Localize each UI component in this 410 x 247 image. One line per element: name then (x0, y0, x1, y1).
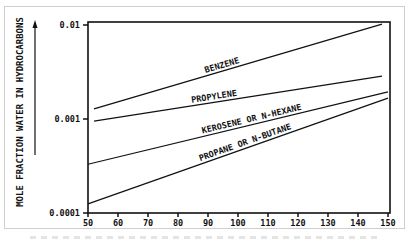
x-tick-label: 140 (350, 218, 365, 228)
caption-faint (30, 236, 380, 239)
y-tick-label: 0.001 (54, 114, 80, 124)
x-tick-label: 120 (290, 218, 305, 228)
y-axis-arrow (33, 20, 38, 155)
series-line-3 (88, 98, 388, 204)
series-line-2 (88, 92, 388, 164)
series-line-0 (94, 24, 382, 109)
x-tick-label: 60 (113, 218, 123, 228)
x-tick-label: 130 (320, 218, 335, 228)
x-tick-label: 50 (83, 218, 93, 228)
series-line-1 (94, 76, 382, 121)
y-axis-label: MOLE FRACTION WATER IN HYDROCARBONS (15, 17, 25, 207)
x-tick-label: 110 (260, 218, 275, 228)
series-label: BENZENE (203, 55, 240, 75)
x-tick-label: 100 (230, 218, 245, 228)
x-tick-label: 80 (173, 218, 183, 228)
x-tick-label: 150 (380, 218, 395, 228)
series-labels: BENZENEPROPYLENEKEROSENE OR N-HEXANEPROP… (191, 55, 303, 163)
y-ticks: 0.00010.0010.01 (49, 20, 88, 218)
x-ticks: 5060708090100110120130140150 (83, 213, 396, 228)
series-lines (88, 24, 388, 204)
y-tick-label: 0.0001 (49, 208, 80, 218)
x-tick-label: 70 (143, 218, 153, 228)
chart: MOLE FRACTION WATER IN HYDROCARBONS 5060… (0, 0, 410, 247)
x-tick-label: 90 (203, 218, 213, 228)
y-tick-label: 0.01 (60, 20, 80, 30)
